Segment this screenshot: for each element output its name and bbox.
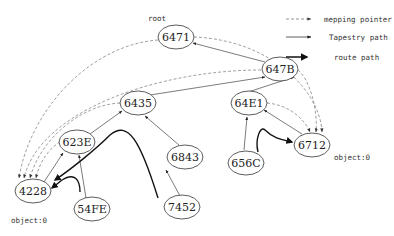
node-6435: 6435 <box>120 91 156 115</box>
svg-text:64E1: 64E1 <box>234 97 263 110</box>
svg-text:623E: 623E <box>62 136 91 149</box>
svg-text:Tapestry path: Tapestry path <box>329 33 388 42</box>
node-647B: 647B <box>262 57 298 81</box>
svg-text:mepping pointer: mepping pointer <box>324 15 392 24</box>
node-623E: 623E <box>59 130 95 154</box>
node-64E1: 64E1 <box>231 91 267 115</box>
legend: mepping pointer Tapestry path route path <box>286 15 392 62</box>
object-label-left: object:0 <box>11 216 48 225</box>
svg-text:4228: 4228 <box>19 185 47 198</box>
tapestry-routing-diagram: 6471 647B 6435 64E1 623E 6843 656C 6712 … <box>0 0 394 236</box>
node-7452: 7452 <box>164 195 200 219</box>
svg-text:647B: 647B <box>265 63 294 76</box>
legend-mapping-pointer: mepping pointer <box>286 15 392 24</box>
svg-text:6435: 6435 <box>124 97 152 110</box>
node-656C: 656C <box>228 151 264 175</box>
node-54FE: 54FE <box>74 197 110 221</box>
svg-text:6843: 6843 <box>171 151 199 164</box>
legend-route-path: route path <box>286 53 379 62</box>
node-6471: 6471 <box>158 25 194 49</box>
node-4228: 4228 <box>15 179 51 203</box>
svg-text:6471: 6471 <box>162 31 190 44</box>
node-6712: 6712 <box>294 133 330 157</box>
svg-text:7452: 7452 <box>168 201 196 214</box>
legend-tapestry-path: Tapestry path <box>286 33 388 42</box>
root-label: root <box>148 14 166 23</box>
node-6843: 6843 <box>167 145 203 169</box>
svg-text:6712: 6712 <box>298 139 326 152</box>
svg-text:route path: route path <box>334 53 379 62</box>
object-label-right: object:0 <box>334 153 371 162</box>
svg-text:656C: 656C <box>231 157 260 170</box>
svg-text:54FE: 54FE <box>77 203 107 216</box>
